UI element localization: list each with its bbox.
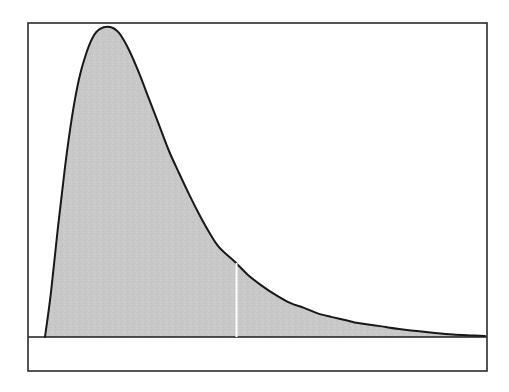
density-plot	[0, 0, 509, 392]
figure-container	[0, 0, 509, 392]
